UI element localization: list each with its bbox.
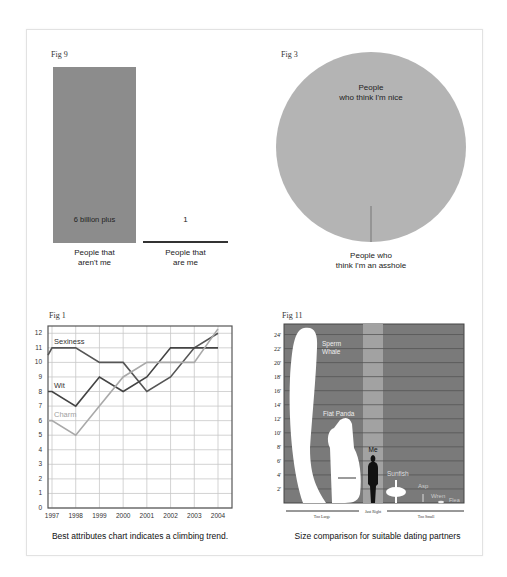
height-tick-label: 14' <box>274 402 281 408</box>
me-label: Me <box>368 446 377 453</box>
height-tick-label: 6' <box>277 458 281 464</box>
line-chart: 0123456789101112199719981999200020012002… <box>30 318 240 528</box>
y-tick-label: 7 <box>38 402 42 409</box>
height-tick-label: 12' <box>274 416 281 422</box>
x-tick-label: 1999 <box>92 512 107 519</box>
y-tick-label: 4 <box>38 446 42 453</box>
size-comparison-chart: 2'4'6'8'10'12'14'16'18'20'22'24'SpermWha… <box>270 318 480 518</box>
y-tick-label: 3 <box>38 460 42 467</box>
x-tick-label: 2002 <box>163 512 178 519</box>
y-tick-label: 5 <box>38 431 42 438</box>
series-label-sexiness: Sexiness <box>54 337 85 346</box>
sunfish-fins <box>395 480 397 503</box>
asp-label: Asp <box>418 483 429 489</box>
x-tick-label: 1998 <box>68 512 83 519</box>
height-tick-label: 18' <box>274 374 281 380</box>
height-tick-label: 4' <box>277 472 281 478</box>
other-value-label: 1 <box>143 215 228 225</box>
whale-label-1: Sperm <box>322 340 341 348</box>
y-tick-label: 1 <box>38 489 42 496</box>
y-tick-label: 0 <box>38 504 42 511</box>
x-tick-label: 2003 <box>187 512 202 519</box>
category-b-label: People that are me <box>143 248 228 268</box>
series-label-charm: Charm <box>54 410 77 419</box>
y-tick-label: 2 <box>38 475 42 482</box>
x-tick-label: 1997 <box>45 512 60 519</box>
y-tick-label: 6 <box>38 417 42 424</box>
height-tick-label: 20' <box>274 360 281 366</box>
bar-value-label: 6 billion plus <box>53 215 136 225</box>
series-label-wit: Wit <box>54 381 66 390</box>
pie-label-asshole: People who think I'm an asshole <box>311 251 431 271</box>
panda-label: Fiat Panda <box>323 410 355 417</box>
height-tick-label: 24' <box>274 332 281 338</box>
y-tick-label: 11 <box>35 344 42 351</box>
fig11-caption: Size comparison for suitable dating part… <box>275 531 480 541</box>
bar-people-me <box>143 241 228 243</box>
sunfish-label: Sunfish <box>387 470 409 477</box>
too-small-label: Too Small <box>418 514 435 519</box>
pie-label-nice: People who think I'm nice <box>311 83 431 103</box>
height-tick-label: 22' <box>274 346 281 352</box>
x-tick-label: 2000 <box>116 512 131 519</box>
y-tick-label: 9 <box>38 373 42 380</box>
x-tick-label: 2001 <box>140 512 155 519</box>
y-tick-label: 12 <box>35 329 43 336</box>
y-tick-label: 8 <box>38 388 42 395</box>
wren-label: Wren <box>431 493 445 499</box>
height-tick-label: 16' <box>274 388 281 394</box>
just-right-label: Just Right <box>365 509 382 514</box>
y-tick-label: 10 <box>35 358 43 365</box>
fig1-caption: Best attributes chart indicates a climbi… <box>35 531 245 541</box>
whale-label-2: Whale <box>322 348 341 355</box>
height-tick-label: 2' <box>277 486 281 492</box>
wren-shape <box>438 501 444 503</box>
category-a-label: People that aren't me <box>53 248 136 268</box>
fig9-label: Fig 9 <box>51 50 68 59</box>
too-large-label: Too Large <box>314 514 331 519</box>
height-tick-label: 10' <box>274 430 281 436</box>
x-tick-label: 2004 <box>211 512 226 519</box>
height-tick-label: 8' <box>277 444 281 450</box>
flea-label: Flea <box>449 497 461 503</box>
pie-chart <box>275 53 445 223</box>
